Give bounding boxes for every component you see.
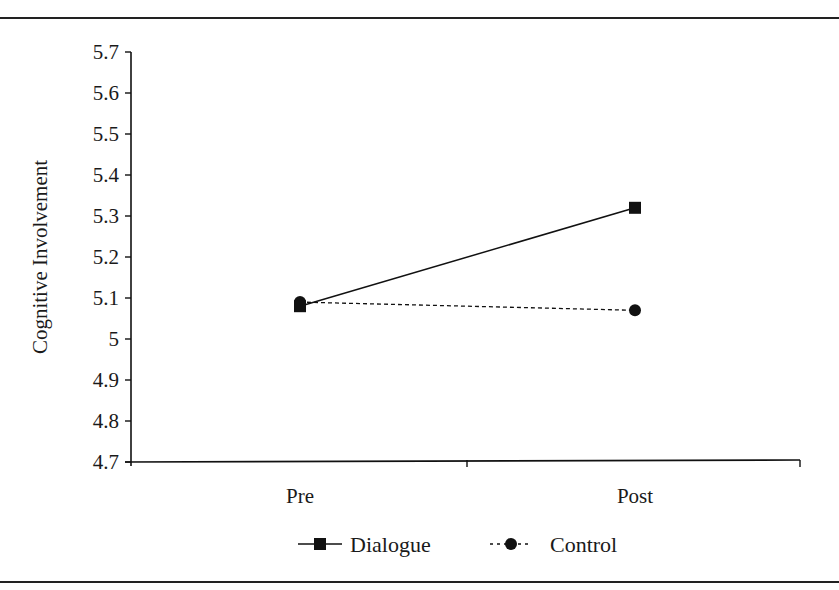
x-axis-line: [125, 460, 800, 462]
y-tick-label: 5.7: [93, 40, 119, 64]
square-marker-icon: [314, 538, 326, 550]
circle-marker-icon: [629, 304, 641, 316]
legend-item-dialogue: Dialogue: [298, 532, 431, 557]
line-chart: 5.75.65.55.45.35.25.154.94.84.7 PrePost …: [0, 0, 839, 590]
y-tick-label: 5: [109, 327, 120, 351]
square-marker-icon: [629, 202, 641, 214]
x-axis: PrePost: [125, 460, 800, 508]
x-tick-label-post: Post: [617, 484, 653, 508]
series-line-control: [300, 302, 635, 310]
y-axis-title: Cognitive Involvement: [28, 160, 52, 354]
x-tick-label-pre: Pre: [286, 484, 314, 508]
y-axis: 5.75.65.55.45.35.25.154.94.84.7: [93, 40, 131, 474]
y-tick-label: 4.8: [93, 409, 119, 433]
y-tick-label: 4.9: [93, 368, 119, 392]
legend-item-control: Control: [490, 532, 617, 557]
y-tick-label: 5.4: [93, 163, 120, 187]
y-tick-label: 4.7: [93, 450, 119, 474]
square-marker-icon: [294, 300, 306, 312]
y-tick-label: 5.1: [93, 286, 119, 310]
y-tick-label: 5.2: [93, 245, 119, 269]
legend: Dialogue Control: [298, 532, 617, 557]
circle-marker-icon: [505, 538, 517, 550]
series-line-dialogue: [300, 208, 635, 306]
y-tick-label: 5.5: [93, 122, 119, 146]
legend-label-control: Control: [550, 532, 617, 557]
y-tick-label: 5.3: [93, 204, 119, 228]
series-layer: [294, 202, 641, 316]
legend-label-dialogue: Dialogue: [350, 532, 431, 557]
y-tick-label: 5.6: [93, 81, 119, 105]
